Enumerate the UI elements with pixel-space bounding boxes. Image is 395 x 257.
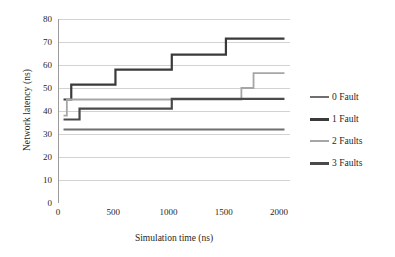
legend-item[interactable]: 2 Faults xyxy=(310,130,394,152)
x-axis-title: Simulation time (ns) xyxy=(58,233,290,243)
y-tick-label: 70 xyxy=(26,38,52,47)
plot-svg xyxy=(58,19,290,203)
y-tick-label: 10 xyxy=(26,176,52,185)
y-tick-label: 20 xyxy=(26,153,52,162)
legend-label: 0 Fault xyxy=(332,92,359,102)
y-tick-label: 60 xyxy=(26,61,52,70)
legend-label: 2 Faults xyxy=(332,136,362,146)
legend-line-icon xyxy=(310,96,329,98)
y-tick-label: 50 xyxy=(26,84,52,93)
legend-line-icon xyxy=(310,140,329,142)
y-tick-label: 80 xyxy=(26,15,52,24)
legend-item[interactable]: 0 Fault xyxy=(310,86,394,108)
x-tick-label: 0 xyxy=(38,208,78,217)
legend-label: 1 Fault xyxy=(332,114,359,124)
legend-label: 3 Faults xyxy=(332,158,362,168)
x-tick-label: 1500 xyxy=(204,208,244,217)
chart-figure: Network latency (ns) 01020304050607080 0… xyxy=(0,0,395,257)
legend-item[interactable]: 1 Fault xyxy=(310,108,394,130)
series-line-1-fault xyxy=(64,39,285,100)
plot-area xyxy=(58,19,290,203)
series-line-3-faults xyxy=(64,99,285,120)
x-tick-label: 1000 xyxy=(148,208,188,217)
legend-line-icon xyxy=(310,118,329,121)
y-tick-label: 0 xyxy=(26,199,52,208)
x-tick-label: 500 xyxy=(93,208,133,217)
legend-line-icon xyxy=(310,162,329,165)
y-tick-label: 40 xyxy=(26,107,52,116)
chart-legend: 0 Fault1 Fault2 Faults3 Faults xyxy=(310,86,394,174)
legend-item[interactable]: 3 Faults xyxy=(310,152,394,174)
y-tick-label: 30 xyxy=(26,130,52,139)
x-tick-label: 2000 xyxy=(259,208,299,217)
